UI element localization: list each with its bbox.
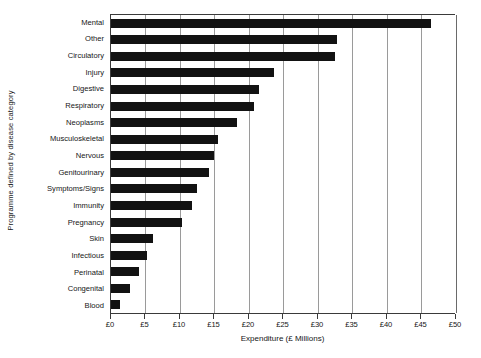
x-tick: [213, 314, 214, 319]
bar[interactable]: [111, 284, 130, 293]
bar[interactable]: [111, 151, 214, 160]
bar-row: [111, 98, 455, 115]
x-tick-label: £50: [449, 320, 462, 329]
y-axis-title: Programme defined by disease category: [0, 0, 20, 320]
bar-row: [111, 81, 455, 98]
x-tick: [317, 314, 318, 319]
bar-row: [111, 131, 455, 148]
bar[interactable]: [111, 68, 274, 77]
category-label: Symptoms/Signs: [47, 185, 104, 193]
bar-row: [111, 280, 455, 297]
y-axis-category-labels: MentalOtherCirculatoryInjuryDigestiveRes…: [18, 14, 108, 314]
category-label-row: Circulatory: [18, 47, 108, 64]
bar[interactable]: [111, 102, 254, 111]
gridline: [456, 15, 457, 313]
x-tick-label: £10: [173, 320, 186, 329]
category-label-row: Immunity: [18, 197, 108, 214]
category-label: Skin: [89, 235, 104, 243]
x-tick: [351, 314, 352, 319]
x-tick: [179, 314, 180, 319]
bar-row: [111, 32, 455, 49]
bar-row: [111, 181, 455, 198]
category-label: Infectious: [71, 252, 104, 260]
bar-row: [111, 197, 455, 214]
bar[interactable]: [111, 251, 147, 260]
x-tick: [455, 314, 456, 319]
bar-chart-figure: Programme defined by disease category Me…: [0, 0, 481, 358]
x-tick-label: £0: [106, 320, 114, 329]
category-label: Nervous: [76, 152, 104, 160]
category-label: Congenital: [68, 285, 104, 293]
bar-row: [111, 148, 455, 165]
category-label: Neoplasms: [66, 119, 104, 127]
bar[interactable]: [111, 118, 237, 127]
x-tick: [420, 314, 421, 319]
x-axis-tick-labels: £0£5£10£15£20£25£30£35£40£45£50: [110, 320, 455, 332]
category-label: Blood: [85, 302, 104, 310]
bar[interactable]: [111, 35, 337, 44]
bars-container: [111, 15, 455, 313]
x-tick: [144, 314, 145, 319]
x-tick: [110, 314, 111, 319]
category-label: Digestive: [73, 85, 104, 93]
x-tick-label: £30: [311, 320, 324, 329]
bar-row: [111, 214, 455, 231]
y-axis-title-text: Programme defined by disease category: [6, 90, 15, 230]
plot-area: [110, 14, 455, 314]
category-label-row: Congenital: [18, 281, 108, 298]
bar-row: [111, 230, 455, 247]
category-label-row: Musculoskeletal: [18, 131, 108, 148]
bar[interactable]: [111, 267, 139, 276]
category-label: Immunity: [73, 202, 104, 210]
bar[interactable]: [111, 184, 197, 193]
bar[interactable]: [111, 52, 335, 61]
x-tick-label: £40: [380, 320, 393, 329]
category-label-row: Blood: [18, 297, 108, 314]
bar-row: [111, 164, 455, 181]
bar-row: [111, 15, 455, 32]
bar[interactable]: [111, 168, 209, 177]
category-label-row: Respiratory: [18, 97, 108, 114]
category-label-row: Other: [18, 31, 108, 48]
bar[interactable]: [111, 19, 431, 28]
bar-row: [111, 247, 455, 264]
category-label: Respiratory: [65, 102, 104, 110]
bar[interactable]: [111, 218, 182, 227]
category-label-row: Neoplasms: [18, 114, 108, 131]
bar[interactable]: [111, 300, 120, 309]
category-label-row: Mental: [18, 14, 108, 31]
x-tick-label: £20: [242, 320, 255, 329]
category-label: Circulatory: [68, 52, 104, 60]
bar-row: [111, 114, 455, 131]
category-label: Genitourinary: [58, 169, 104, 177]
bar-row: [111, 263, 455, 280]
bar-row: [111, 65, 455, 82]
x-tick: [386, 314, 387, 319]
category-label-row: Genitourinary: [18, 164, 108, 181]
category-label: Pregnancy: [68, 219, 104, 227]
category-label-row: Digestive: [18, 81, 108, 98]
x-tick: [282, 314, 283, 319]
bar[interactable]: [111, 234, 153, 243]
category-label: Other: [85, 35, 104, 43]
bar[interactable]: [111, 135, 218, 144]
category-label: Mental: [81, 19, 104, 27]
category-label: Perinatal: [74, 269, 104, 277]
category-label-row: Skin: [18, 231, 108, 248]
x-tick-label: £15: [207, 320, 220, 329]
x-tick-label: £5: [140, 320, 148, 329]
x-axis-title: Expenditure (£ Millions): [110, 334, 455, 343]
bar-row: [111, 48, 455, 65]
x-tick: [248, 314, 249, 319]
category-label: Injury: [85, 69, 104, 77]
x-tick-label: £35: [345, 320, 358, 329]
bar[interactable]: [111, 85, 259, 94]
category-label-row: Symptoms/Signs: [18, 181, 108, 198]
category-label: Musculoskeletal: [50, 135, 104, 143]
category-label-row: Perinatal: [18, 264, 108, 281]
category-label-row: Infectious: [18, 247, 108, 264]
x-tick-label: £45: [414, 320, 427, 329]
bar[interactable]: [111, 201, 192, 210]
category-label-row: Nervous: [18, 147, 108, 164]
category-label-row: Pregnancy: [18, 214, 108, 231]
